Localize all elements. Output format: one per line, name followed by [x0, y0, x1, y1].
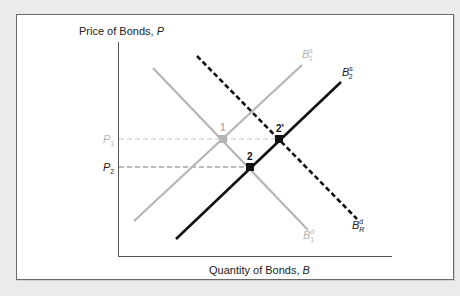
- equilibrium-label-2: 2: [247, 151, 253, 162]
- equilibrium-point-2prime: [275, 135, 283, 143]
- p1-tick-label: P1: [103, 133, 114, 147]
- equilibrium-label-1: 1: [220, 122, 226, 133]
- equilibrium-label-2prime: 2': [276, 123, 284, 134]
- p2-tick-label: P2: [103, 161, 114, 175]
- equilibrium-point-2: [246, 163, 254, 171]
- bond-market-chart: Price of Bonds, P Quantity of Bonds, B P…: [0, 0, 460, 296]
- b1-supply-label: Bs1: [302, 47, 313, 62]
- b1-demand-label: Bd1: [303, 228, 314, 243]
- x-axis-label: Quantity of Bonds, B: [209, 264, 310, 276]
- equilibrium-point-1: [219, 135, 227, 143]
- br-demand-label: BdR: [352, 218, 364, 233]
- b2-supply-label: Bs2: [342, 65, 353, 80]
- b1-demand-curve: [153, 68, 308, 230]
- y-axis-label: Price of Bonds, P: [79, 25, 165, 37]
